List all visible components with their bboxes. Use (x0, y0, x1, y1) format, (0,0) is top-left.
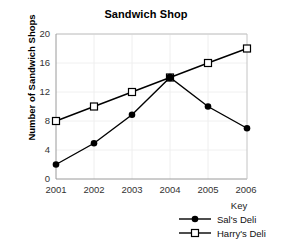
data-point-sals-2004 (166, 74, 174, 82)
grid-lines (56, 34, 247, 179)
x-tick-2006: 2006 (229, 184, 263, 195)
data-point-harrys-2006 (244, 45, 251, 52)
x-axis-ticks: 2001 2002 2003 2004 2005 2006 (0, 184, 292, 198)
legend-item-harrys-deli: Harry's Deli (178, 226, 288, 240)
data-point-sals-2003 (129, 111, 136, 118)
data-point-sals-2005 (205, 103, 212, 110)
legend-label-harrys-deli: Harry's Deli (212, 228, 266, 239)
data-point-sals-2006 (244, 125, 251, 132)
data-point-harrys-2002 (91, 103, 98, 110)
data-point-harrys-2003 (129, 89, 136, 96)
x-tick-2003: 2003 (115, 184, 149, 195)
legend-title: Key (200, 200, 278, 211)
plot-frame (56, 34, 247, 179)
line-chart: Sandwich Shop Number of Sandwich Shops 2… (0, 0, 292, 250)
x-tick-2005: 2005 (191, 184, 225, 195)
data-point-sals-2001 (53, 161, 60, 168)
series-harrys-deli (53, 45, 251, 125)
legend-item-sals-deli: Sal's Deli (178, 212, 288, 226)
x-tick-2004: 2004 (153, 184, 187, 195)
x-tick-2002: 2002 (77, 184, 111, 195)
legend-marker-open-square (178, 226, 212, 240)
legend-label-sals-deli: Sal's Deli (212, 214, 256, 225)
data-point-harrys-2001 (53, 118, 60, 125)
chart-legend: Key Sal's Deli Harry's Deli (178, 200, 288, 240)
data-point-sals-2002 (91, 140, 98, 147)
legend-marker-filled-circle (178, 212, 212, 226)
data-point-harrys-2005 (205, 60, 212, 67)
x-tick-2001: 2001 (39, 184, 73, 195)
